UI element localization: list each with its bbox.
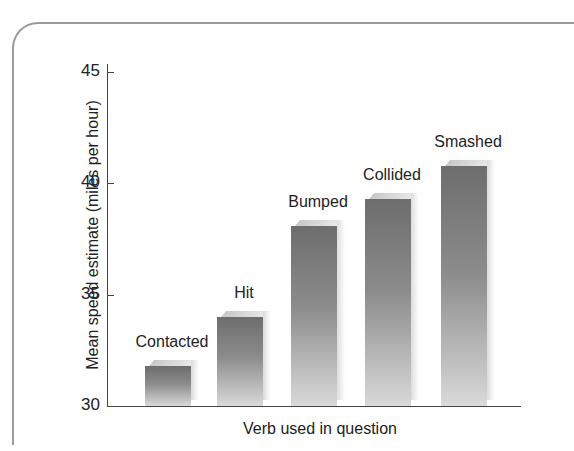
bar-label: Smashed	[408, 133, 528, 151]
y-tick-label: 35	[60, 284, 100, 304]
y-tick-label: 30	[60, 395, 100, 415]
x-axis-label: Verb used in question	[200, 420, 440, 438]
bar-bumped	[291, 226, 337, 406]
bar-side-face	[337, 220, 345, 400]
bar-side-face	[191, 360, 199, 400]
y-tick	[107, 72, 114, 73]
bar-smashed	[441, 166, 487, 406]
bar-side-face	[487, 160, 495, 400]
bar-contacted	[145, 366, 191, 406]
bar-label: Hit	[184, 284, 304, 302]
y-tick	[107, 295, 114, 296]
y-tick-label: 40	[60, 172, 100, 192]
y-axis	[107, 64, 108, 407]
bar-label: Bumped	[258, 193, 378, 211]
bar-hit	[217, 317, 263, 406]
y-axis-label: Mean speed estimate (miles per hour)	[84, 35, 102, 435]
bar-label: Contacted	[112, 333, 232, 351]
bar-collided	[365, 199, 411, 406]
y-tick	[107, 183, 114, 184]
y-tick-label: 45	[60, 61, 100, 81]
bar-side-face	[411, 193, 419, 400]
bar-side-face	[263, 311, 271, 400]
x-axis	[107, 406, 521, 407]
bar-label: Collided	[332, 166, 452, 184]
